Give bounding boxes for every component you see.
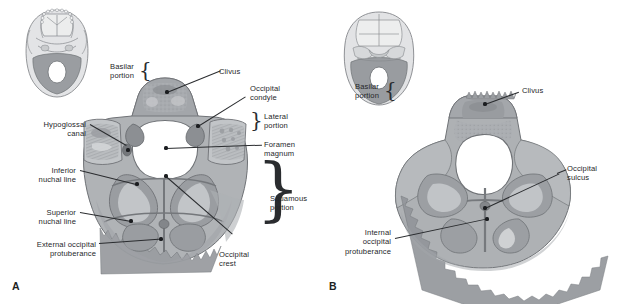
point-clivus-b bbox=[483, 102, 486, 105]
panel-letter-b: B bbox=[329, 280, 337, 292]
label-squamous-portion: Squamous portion bbox=[270, 194, 307, 213]
point-occipital-sulcus bbox=[483, 206, 486, 209]
label-internal-occipital-protuberance: Internal occipital protuberance bbox=[317, 228, 391, 256]
label-occipital-condyle: Occipital condyle bbox=[250, 84, 280, 103]
label-clivus-b: Clivus bbox=[522, 86, 543, 95]
point-clivus bbox=[165, 90, 168, 93]
point-hypoglossal-canal bbox=[126, 148, 129, 151]
point-inferior-nuchal-line bbox=[135, 182, 138, 185]
label-hypoglossal-canal: Hypoglossal canal bbox=[10, 120, 86, 139]
point-external-occipital-protuberance bbox=[159, 237, 162, 240]
occipital-bone-internal bbox=[395, 91, 608, 304]
brace-basilar-portion: { bbox=[139, 60, 152, 80]
occipital-bone-figure: Basilar portion { Clivus Occipital condy… bbox=[0, 0, 634, 304]
point-foramen-magnum bbox=[164, 146, 167, 149]
panel-b-artwork bbox=[317, 0, 634, 304]
label-clivus: Clivus bbox=[219, 67, 240, 76]
label-external-occipital-protuberance: External occipital protuberance bbox=[6, 240, 96, 259]
external-occipital-protuberance-bump bbox=[159, 220, 169, 229]
point-superior-nuchal-line bbox=[129, 219, 132, 222]
skull-inferior-inset bbox=[26, 9, 88, 97]
label-basilar-portion: Basilar portion bbox=[90, 62, 134, 81]
label-occipital-crest: Occipital crest bbox=[219, 250, 249, 269]
panel-a: Basilar portion { Clivus Occipital condy… bbox=[0, 0, 317, 304]
label-superior-nuchal-line: Superior nuchal line bbox=[10, 208, 76, 227]
label-lateral-portion: Lateral portion bbox=[264, 112, 288, 131]
label-inferior-nuchal-line: Inferior nuchal line bbox=[10, 166, 76, 185]
panel-letter-a: A bbox=[12, 280, 20, 292]
panel-b: Basilar portion { Clivus Occipital sulcu… bbox=[317, 0, 634, 304]
point-internal-occipital-protuberance bbox=[485, 217, 488, 220]
point-occipital-condyle bbox=[196, 124, 199, 127]
point-occipital-crest bbox=[164, 174, 167, 177]
label-basilar-portion-b: Basilar portion bbox=[317, 82, 379, 101]
brace-basilar-portion-b: { bbox=[384, 80, 397, 100]
brace-squamous-portion: } bbox=[256, 154, 301, 224]
brace-lateral-portion: } bbox=[250, 110, 263, 130]
label-occipital-sulcus: Occipital sulcus bbox=[567, 164, 597, 183]
